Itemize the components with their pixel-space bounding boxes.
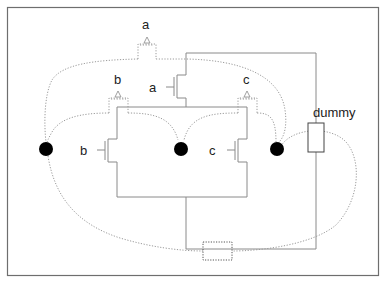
dummy-element — [308, 123, 324, 152]
pin-a-label: a — [142, 17, 150, 32]
dashed-box — [203, 242, 232, 260]
pin-b-terminal-icon — [115, 91, 121, 97]
circuit-diagram: a b c a b c — [0, 0, 384, 283]
pin-a: a — [138, 17, 156, 59]
pin-a-terminal-icon — [144, 37, 150, 43]
transistor-c-label: c — [209, 143, 216, 158]
node-left — [39, 142, 53, 156]
node-right — [270, 142, 284, 156]
node-middle — [174, 142, 188, 156]
dummy-label: dummy — [313, 105, 356, 120]
dotted-wiring — [45, 59, 356, 251]
transistor-a-label: a — [149, 80, 157, 95]
pin-b-label: b — [114, 72, 121, 87]
transistor-b-label: b — [80, 143, 87, 158]
pin-c-terminal-icon — [244, 91, 250, 97]
pin-c-label: c — [243, 72, 250, 87]
